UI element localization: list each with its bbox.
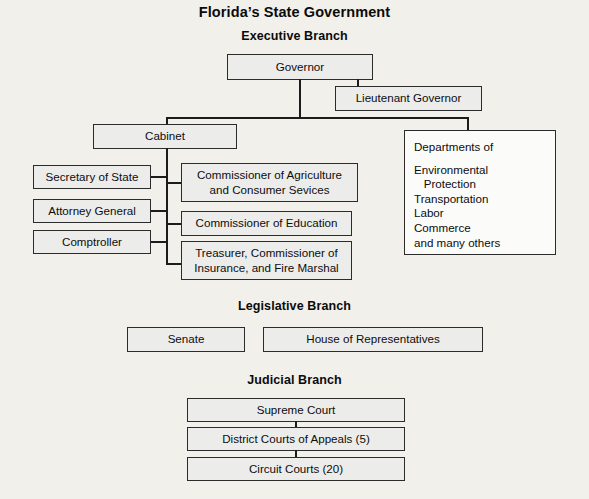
box-comptroller-label: Comptroller: [62, 235, 122, 250]
box-commissioner-agriculture[interactable]: Commissioner of Agriculture and Consumer…: [181, 163, 358, 202]
box-treasurer-commissioner-insurance[interactable]: Treasurer, Commissioner of Insurance, an…: [181, 241, 352, 280]
box-commissioner-education-label: Commissioner of Education: [196, 216, 338, 231]
departments-body: Departments of Environmental Protection …: [414, 140, 551, 250]
box-district-courts-of-appeals[interactable]: District Courts of Appeals (5): [187, 427, 405, 451]
department-item-many-others: and many others: [414, 236, 551, 251]
box-secretary-of-state-label: Secretary of State: [46, 170, 139, 185]
box-departments[interactable]: Departments of Environmental Protection …: [404, 130, 556, 255]
department-item-commerce: Commerce: [414, 221, 551, 236]
connector-executive-bus: [166, 117, 469, 119]
box-cabinet-label: Cabinet: [145, 129, 185, 144]
department-item-transportation: Transportation: [414, 192, 551, 207]
connector-governor-stem: [299, 79, 301, 119]
box-house-of-representatives[interactable]: House of Representatives: [263, 327, 483, 352]
department-item-protection: Protection: [414, 177, 551, 192]
box-governor[interactable]: Governor: [227, 54, 373, 80]
box-commissioner-education[interactable]: Commissioner of Education: [181, 211, 352, 236]
box-senate[interactable]: Senate: [127, 327, 245, 352]
box-secretary-of-state[interactable]: Secretary of State: [33, 165, 151, 189]
box-house-of-representatives-label: House of Representatives: [306, 332, 439, 347]
connector-cabinet-to-commissioner-education: [166, 223, 182, 225]
box-district-courts-of-appeals-label: District Courts of Appeals (5): [222, 432, 370, 447]
box-attorney-general[interactable]: Attorney General: [33, 199, 151, 223]
section-heading-legislative: Legislative Branch: [0, 299, 589, 313]
box-senate-label: Senate: [168, 332, 205, 347]
box-lieutenant-governor[interactable]: Lieutenant Governor: [335, 86, 482, 111]
connector-cabinet-to-commissioner-agriculture: [166, 182, 182, 184]
section-heading-judicial: Judicial Branch: [0, 373, 589, 387]
box-supreme-court-label: Supreme Court: [257, 403, 336, 418]
departments-spacer: [414, 155, 551, 163]
box-supreme-court[interactable]: Supreme Court: [187, 398, 405, 422]
box-treasurer-commissioner-insurance-label: Treasurer, Commissioner of Insurance, an…: [186, 246, 347, 275]
connector-cabinet-to-attorney-general: [150, 210, 168, 212]
page-title: Florida’s State Government: [0, 4, 589, 20]
connector-cabinet-to-treasurer: [166, 263, 182, 265]
box-circuit-courts-label: Circuit Courts (20): [249, 462, 343, 477]
connector-cabinet-spine: [166, 148, 168, 265]
box-commissioner-agriculture-label: Commissioner of Agriculture and Consumer…: [186, 168, 353, 197]
box-lieutenant-governor-label: Lieutenant Governor: [356, 91, 462, 106]
connector-bus-to-departments: [467, 117, 469, 131]
departments-header: Departments of: [414, 140, 493, 153]
department-item-labor: Labor: [414, 206, 551, 221]
box-comptroller[interactable]: Comptroller: [33, 230, 151, 254]
box-circuit-courts[interactable]: Circuit Courts (20): [187, 457, 405, 481]
org-chart-canvas: Florida’s State Government Executive Bra…: [0, 0, 589, 499]
connector-district-to-circuit: [295, 450, 297, 457]
connector-cabinet-to-secretary-of-state: [150, 176, 168, 178]
box-governor-label: Governor: [276, 60, 324, 75]
connector-cabinet-to-comptroller: [150, 241, 168, 243]
box-cabinet[interactable]: Cabinet: [93, 124, 237, 149]
section-heading-executive: Executive Branch: [0, 29, 589, 43]
box-attorney-general-label: Attorney General: [48, 204, 136, 219]
department-item-environmental: Environmental: [414, 163, 551, 178]
